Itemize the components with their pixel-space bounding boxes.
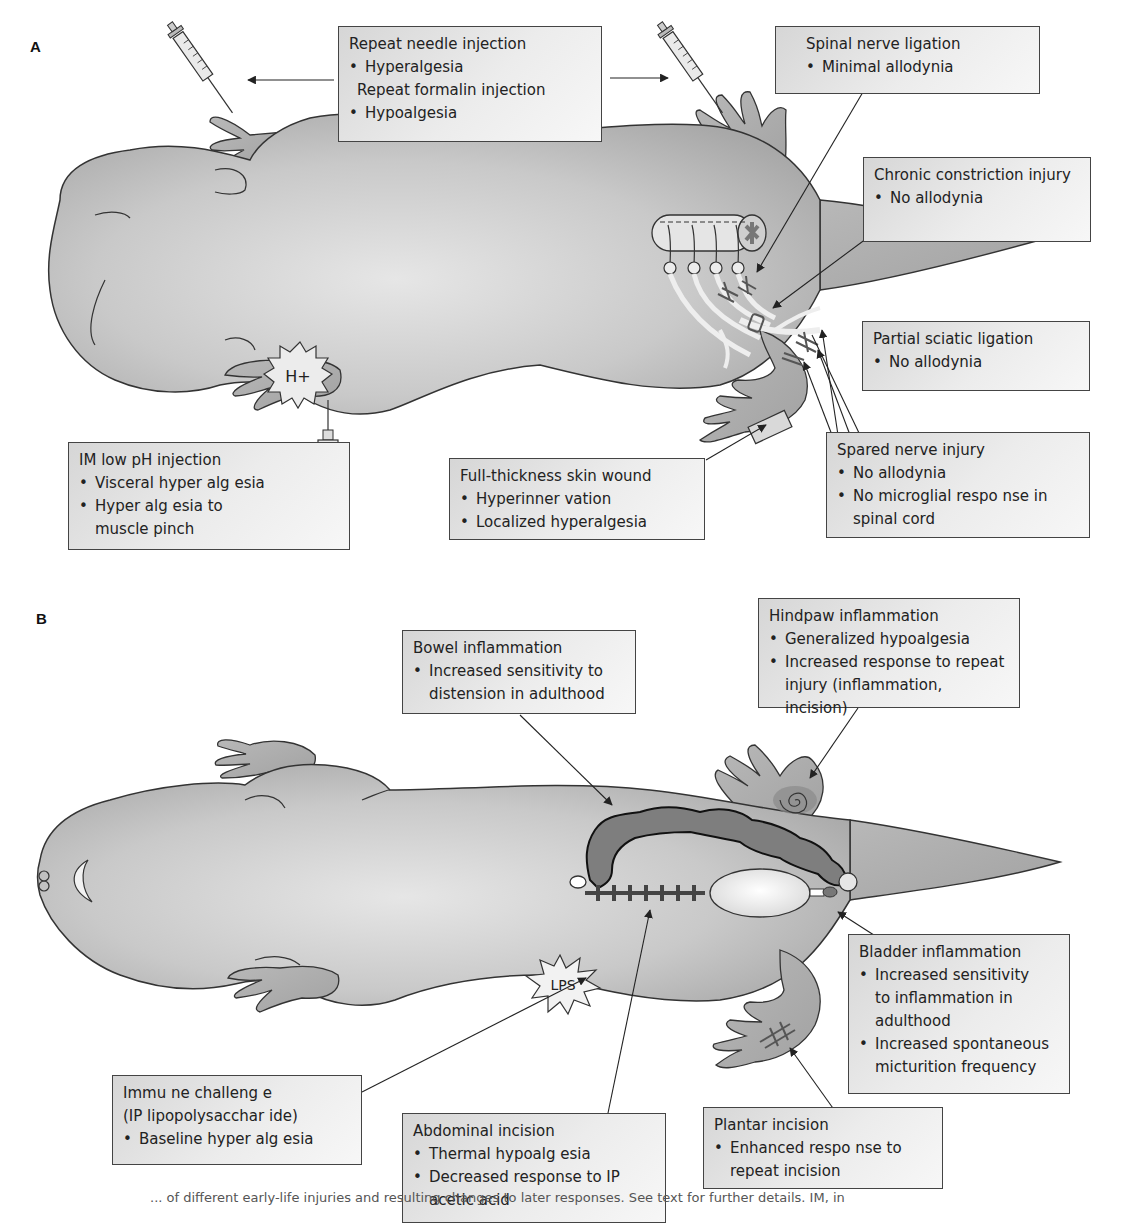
box-skin-wound: Full-thickness skin wound Hyperinner vat… <box>449 458 705 540</box>
box-bullet: No allodynia <box>837 462 1079 485</box>
box-title: Bowel inflammation <box>413 637 625 660</box>
box-abdominal-incision: Abdominal incision Thermal hypoalg esia … <box>402 1113 666 1223</box>
box-bullet: Baseline hyper alg esia <box>123 1128 351 1151</box>
box-bullet: Generalized hypoalgesia <box>769 628 1009 651</box>
box-bullet: Hyper alg esia to muscle pinch <box>79 495 255 541</box>
box-title: Partial sciatic ligation <box>873 328 1079 351</box>
box-bullet: Decreased response to IP acetic acid <box>413 1166 629 1212</box>
box-title: Spinal nerve ligation <box>806 33 1029 56</box>
box-bullet: Hypoalgesia <box>349 102 591 125</box>
proton-label: H+ <box>285 367 310 386</box>
box-bullet: No allodynia <box>873 351 1079 374</box>
box-title: IM low pH injection <box>79 449 339 472</box>
box-hindpaw-inflammation: Hindpaw inflammation Generalized hypoalg… <box>758 598 1020 708</box>
box-bowel-inflammation: Bowel inflammation Increased sensitivity… <box>402 630 636 714</box>
box-bladder-inflammation: Bladder inflammation Increased sensitivi… <box>848 934 1070 1094</box>
box-title: Bladder inflammation <box>859 941 1059 964</box>
box-im-low-ph: IM low pH injection Visceral hyper alg e… <box>68 442 350 550</box>
box-repeat-injection: Repeat needle injection Hyperalgesia Rep… <box>338 26 602 142</box>
box-partial-sciatic: Partial sciatic ligation No allodynia <box>862 321 1090 391</box>
panel-label-a: A <box>30 38 41 55</box>
box-subtitle: (IP lipopolysacchar ide) <box>123 1105 351 1128</box>
box-spared-nerve: Spared nerve injury No allodynia No micr… <box>826 432 1090 538</box>
box-title: Repeat needle injection <box>349 33 591 56</box>
box-title: Immu ne challeng e <box>123 1082 351 1105</box>
box-title: Chronic constriction injury <box>874 164 1080 187</box>
box-bullet: No microglial respo nse in spinal cord <box>837 485 1079 531</box>
box-bullet: Hyperinner vation <box>460 488 694 511</box>
box-title: Full-thickness skin wound <box>460 465 694 488</box>
box-bullet: No allodynia <box>874 187 1080 210</box>
box-bullet: Localized hyperalgesia <box>460 511 694 534</box>
box-plantar-incision: Plantar incision Enhanced respo nse to r… <box>703 1107 943 1189</box>
box-bullet: Enhanced respo nse to repeat incision <box>714 1137 920 1183</box>
box-bullet: Visceral hyper alg esia <box>79 472 339 495</box>
front-paw-lower-b <box>228 966 339 1012</box>
panel-label-b: B <box>36 610 47 627</box>
box-bullet: Thermal hypoalg esia <box>413 1143 655 1166</box>
box-title: Spared nerve injury <box>837 439 1079 462</box>
box-bullet: Hyperalgesia <box>349 56 591 79</box>
box-bullet: Increased sensitivity to distension in a… <box>413 660 625 706</box>
box-title: Plantar incision <box>714 1114 932 1137</box>
syringe-icon <box>163 19 239 117</box>
box-bullet: Increased sensitivity to inflammation in… <box>859 964 1045 1033</box>
box-title: Hindpaw inflammation <box>769 605 1009 628</box>
figure-caption: ... of different early-life injuries and… <box>150 1190 845 1205</box>
box-chronic-constriction: Chronic constriction injury No allodynia <box>863 157 1091 242</box>
box-spinal-nerve-ligation: Spinal nerve ligation Minimal allodynia <box>775 26 1040 94</box>
box-bullet: Increased response to repeat injury (inf… <box>769 651 1009 720</box>
box-title: Abdominal incision <box>413 1120 655 1143</box>
inflammation-spiral-icon <box>773 786 817 814</box>
box-immune-challenge: Immu ne challeng e (IP lipopolysacchar i… <box>112 1075 362 1165</box>
box-bullet: Minimal allodynia <box>806 56 1029 79</box>
box-bullet: Increased spontaneous micturition freque… <box>859 1033 1059 1079</box>
box-subtitle: Repeat formalin injection <box>349 79 591 102</box>
